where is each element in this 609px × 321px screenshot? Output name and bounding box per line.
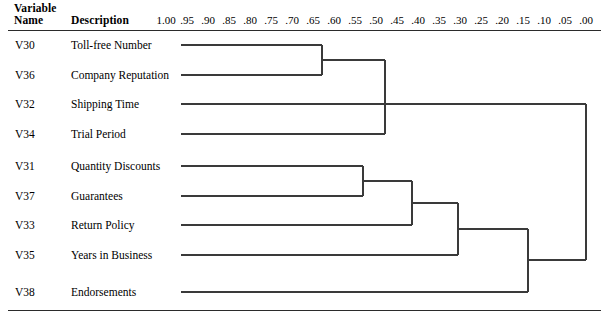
tree-line-group <box>181 45 586 292</box>
dendrogram-figure: Variable Name Description 1.00.95.90.85.… <box>0 0 609 321</box>
dendrogram-tree <box>0 0 609 321</box>
